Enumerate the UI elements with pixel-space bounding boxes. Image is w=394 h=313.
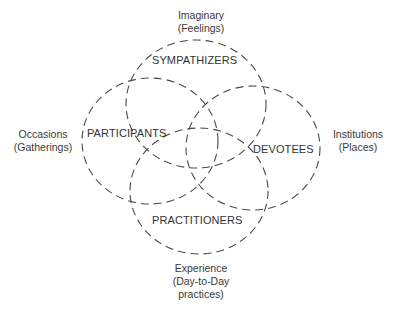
outer-label-top: Imaginary (Feelings): [169, 9, 233, 35]
label-devotees: DEVOTEES: [253, 143, 314, 155]
label-practitioners: PRACTITIONERS: [152, 214, 243, 226]
outer-label-bottom-line1: Experience: [166, 262, 236, 275]
outer-label-bottom-line3: practices): [166, 288, 236, 301]
label-participants: PARTICIPANTS: [87, 127, 166, 139]
label-sympathizers: SYMPATHIZERS: [152, 54, 237, 66]
outer-label-right: Institutions (Places): [326, 128, 390, 154]
outer-label-bottom: Experience (Day-to-Day practices): [166, 262, 236, 301]
circle-participants: [82, 78, 218, 204]
outer-label-left-line2: (Gatherings): [8, 141, 78, 154]
outer-label-bottom-line2: (Day-to-Day: [166, 275, 236, 288]
outer-label-top-line1: Imaginary: [169, 9, 233, 22]
outer-label-right-line1: Institutions: [326, 128, 390, 141]
outer-label-left-line1: Occasions: [8, 128, 78, 141]
outer-label-right-line2: (Places): [326, 141, 390, 154]
circle-practitioners: [130, 128, 268, 254]
outer-label-top-line2: (Feelings): [169, 22, 233, 35]
outer-label-left: Occasions (Gatherings): [8, 128, 78, 154]
